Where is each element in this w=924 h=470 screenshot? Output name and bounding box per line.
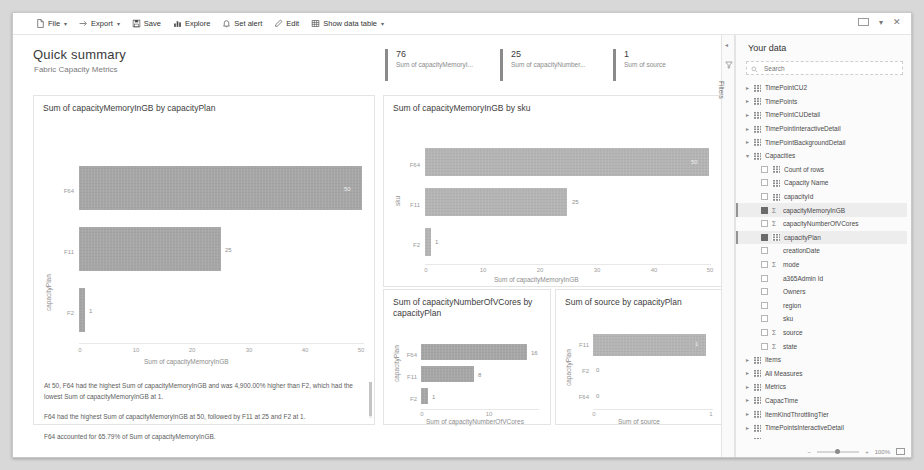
- toolbar-save-button[interactable]: Save: [127, 17, 166, 30]
- zoom-slider[interactable]: [817, 451, 859, 453]
- zoom-in-button[interactable]: +: [865, 449, 869, 455]
- field-list-table[interactable]: ▸TimePointsBackgroundDetail: [736, 434, 907, 439]
- chevron-right-icon[interactable]: ▸: [746, 411, 753, 417]
- bar-f11[interactable]: [421, 366, 474, 382]
- field-list-table[interactable]: ▸CapacTime: [736, 394, 907, 408]
- field-list-field[interactable]: region: [736, 299, 907, 313]
- toolbar-set-alert-button[interactable]: Set alert: [217, 17, 267, 30]
- toolbar-edit-button[interactable]: Edit: [269, 17, 304, 30]
- chevron-down-icon: ▾: [64, 20, 67, 27]
- chevron-right-icon[interactable]: ▸: [746, 98, 753, 104]
- bar-f11[interactable]: [79, 227, 221, 271]
- field-checkbox[interactable]: [761, 261, 768, 268]
- field-list-field[interactable]: a365Admin Id: [736, 271, 907, 285]
- field-checkbox[interactable]: [761, 315, 768, 322]
- visual-source-by-capacityplan[interactable]: Sum of source by capacityPlan capacityPl…: [555, 289, 723, 425]
- kpi-card-source[interactable]: 1 Sum of source: [613, 49, 718, 81]
- field-checkbox[interactable]: [761, 302, 768, 309]
- field-list-table[interactable]: ▸TimePointCUDetail: [736, 108, 907, 122]
- toolbar-explore-button[interactable]: Explore: [168, 17, 215, 30]
- field-list-field[interactable]: creationDate: [736, 244, 907, 258]
- field-list-field[interactable]: Σstate: [736, 339, 907, 353]
- field-list-field[interactable]: ΣcapacityMemoryInGB: [736, 203, 907, 217]
- field-checkbox[interactable]: [761, 343, 768, 350]
- kpi-card-memory[interactable]: 76 Sum of capacityMemoryI...: [385, 49, 495, 81]
- chevron-right-icon[interactable]: ▸: [746, 126, 753, 132]
- chevron-down-icon[interactable]: ▾: [879, 18, 883, 27]
- field-list-field[interactable]: capacityId: [736, 190, 907, 204]
- zoom-out-button[interactable]: −: [808, 449, 812, 455]
- field-list-field[interactable]: ΣcapacityNumberOfVCores: [736, 217, 907, 231]
- field-checkbox[interactable]: [761, 220, 768, 227]
- kpi-card-vcores[interactable]: 25 Sum of capacityNumber...: [500, 49, 610, 81]
- toolbar-show-data-table-button[interactable]: Show data table ▾: [306, 17, 389, 30]
- field-list-table[interactable]: ▸All Measures: [736, 366, 907, 380]
- restore-window-icon[interactable]: [858, 18, 869, 26]
- field-list-field[interactable]: Count of rows: [736, 163, 907, 177]
- field-checkbox[interactable]: [761, 193, 768, 200]
- field-list[interactable]: ▸TimePointCU2▸TimePoints▸TimePointCUDeta…: [736, 81, 907, 439]
- field-list-table[interactable]: ▸TimePointsInteractiveDetail: [736, 421, 907, 435]
- field-list-field[interactable]: sku: [736, 312, 907, 326]
- chevron-right-icon[interactable]: ▸: [746, 112, 753, 118]
- chevron-right-icon[interactable]: ▸: [746, 139, 753, 145]
- bar-f2[interactable]: [425, 228, 431, 256]
- field-list-table[interactable]: ▸Metrics: [736, 380, 907, 394]
- table-icon: [311, 19, 320, 28]
- visual-memory-by-sku[interactable]: Sum of capacityMemoryInGB by sku sku F64…: [383, 95, 723, 287]
- fit-to-page-icon[interactable]: [896, 448, 905, 455]
- visual-memory-by-capacityplan[interactable]: Sum of capacityMemoryInGB by capacityPla…: [33, 95, 375, 425]
- field-checkbox[interactable]: [761, 247, 768, 254]
- explore-icon: [173, 19, 182, 28]
- chevron-right-icon[interactable]: ▸: [746, 357, 753, 363]
- field-list-table[interactable]: ▸TimePointBackgroundDetail: [736, 135, 907, 149]
- chevron-right-icon[interactable]: ▾: [746, 153, 753, 159]
- bar-f2[interactable]: [79, 288, 85, 332]
- chevron-right-icon[interactable]: ▸: [746, 397, 753, 403]
- field-checkbox[interactable]: [761, 207, 768, 214]
- field-list-table[interactable]: ▸TimePoints: [736, 95, 907, 109]
- close-window-icon[interactable]: ✕: [893, 17, 901, 27]
- chevron-right-icon[interactable]: ▸: [746, 425, 753, 431]
- field-checkbox[interactable]: [761, 288, 768, 295]
- chevron-down-icon: ▾: [117, 20, 120, 27]
- scrollbar-thumb[interactable]: [369, 382, 372, 416]
- zoom-slider-knob[interactable]: [835, 449, 840, 454]
- field-checkbox[interactable]: [761, 275, 768, 282]
- field-list-table[interactable]: ▸TimePointInteractiveDetail: [736, 122, 907, 136]
- chevron-right-icon[interactable]: ▸: [746, 384, 753, 390]
- field-checkbox[interactable]: [761, 179, 768, 186]
- field-list-table[interactable]: ▸Items: [736, 353, 907, 367]
- field-list-table[interactable]: ▾Capacities: [736, 149, 907, 163]
- bar-f2[interactable]: [421, 388, 428, 404]
- x-tick-label: 30: [594, 267, 601, 273]
- filters-pane-collapsed[interactable]: ◂ Filters: [721, 35, 735, 457]
- field-list-field[interactable]: Σmode: [736, 258, 907, 272]
- chevron-left-icon[interactable]: ◂: [725, 41, 728, 48]
- field-list-field[interactable]: Capacity Name: [736, 176, 907, 190]
- bar-f64[interactable]: [79, 166, 362, 210]
- field-checkbox[interactable]: [761, 234, 768, 241]
- field-list-field[interactable]: Σsource: [736, 326, 907, 340]
- bar-f64[interactable]: [425, 148, 709, 176]
- chevron-right-icon[interactable]: ▸: [746, 370, 753, 376]
- bar-f11[interactable]: [593, 334, 706, 356]
- field-checkbox[interactable]: [761, 166, 768, 173]
- field-list-field[interactable]: Owners: [736, 285, 907, 299]
- toolbar-file-button[interactable]: File ▾: [31, 17, 72, 30]
- bar-f11[interactable]: [425, 188, 567, 216]
- field-list-table[interactable]: ▸TimePointCU2: [736, 81, 907, 95]
- chevron-right-icon[interactable]: ▸: [746, 85, 753, 91]
- chevron-right-icon[interactable]: ▸: [746, 438, 753, 439]
- insights-scrollbar[interactable]: [369, 382, 372, 418]
- field-list-label: TimePointCUDetail: [765, 111, 820, 118]
- toolbar-export-button[interactable]: Export ▾: [74, 17, 125, 30]
- field-list-field[interactable]: capacityPlan: [736, 231, 907, 245]
- field-list-table[interactable]: ▸ItemKindThrottlingTier: [736, 407, 907, 421]
- field-checkbox[interactable]: [761, 329, 768, 336]
- funnel-icon: [725, 55, 733, 73]
- search-box[interactable]: [746, 61, 903, 75]
- search-input[interactable]: [762, 64, 898, 73]
- bar-f64[interactable]: [421, 344, 527, 360]
- visual-vcores-by-capacityplan[interactable]: Sum of capacityNumberOfVCores by capacit…: [383, 289, 551, 425]
